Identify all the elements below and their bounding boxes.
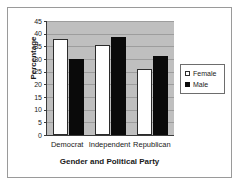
y-axis-tick-label: 35 — [26, 42, 42, 51]
y-axis-tick-label: 5 — [26, 118, 42, 127]
y-axis-tick — [44, 135, 47, 136]
gridline — [47, 34, 174, 35]
legend-swatch-icon-female — [185, 71, 190, 76]
chart-frame: Percentage 051015202530354045 DemocratIn… — [7, 7, 232, 178]
y-axis-tick — [44, 110, 47, 111]
bar-democrat-female — [53, 39, 68, 135]
y-axis-tick — [44, 122, 47, 123]
gridline — [47, 21, 174, 22]
bar-independent-male — [111, 37, 126, 135]
x-axis-label-republican: Republican — [131, 139, 173, 151]
y-axis-tick-label: 15 — [26, 93, 42, 102]
bar-republican-male — [153, 56, 168, 135]
y-axis-tick-label: 30 — [26, 55, 42, 64]
y-axis-tick — [44, 59, 47, 60]
y-axis-tick — [44, 34, 47, 35]
y-axis-tick-label: 10 — [26, 105, 42, 114]
chart-legend: FemaleMale — [180, 64, 225, 94]
legend-item-female[interactable]: Female — [185, 68, 221, 79]
y-axis-tick-labels: 051015202530354045 — [26, 21, 42, 135]
y-axis-tick-label: 20 — [26, 80, 42, 89]
x-axis-label-independent: Independent — [88, 139, 130, 151]
y-axis-tick — [44, 97, 47, 98]
y-axis-tick-label: 45 — [26, 17, 42, 26]
y-axis-tick — [44, 72, 47, 73]
bar-independent-female — [95, 45, 110, 135]
y-axis-tick-label: 40 — [26, 29, 42, 38]
y-axis-tick — [44, 46, 47, 47]
y-axis-tick — [44, 84, 47, 85]
bar-republican-female — [137, 69, 152, 135]
x-axis-label-democrat: Democrat — [46, 139, 88, 151]
legend-label: Male — [193, 79, 208, 90]
bar-democrat-male — [69, 59, 84, 135]
y-axis-tick-label: 25 — [26, 67, 42, 76]
legend-item-male[interactable]: Male — [185, 79, 221, 90]
x-axis-category-labels: DemocratIndependentRepublican — [46, 139, 174, 151]
legend-swatch-icon-male — [185, 82, 190, 87]
legend-label: Female — [193, 68, 216, 79]
y-axis-tick — [44, 21, 47, 22]
x-axis-title: Gender and Political Party — [22, 155, 197, 168]
y-axis-tick-label: 0 — [26, 131, 42, 140]
plot-area — [46, 21, 174, 136]
